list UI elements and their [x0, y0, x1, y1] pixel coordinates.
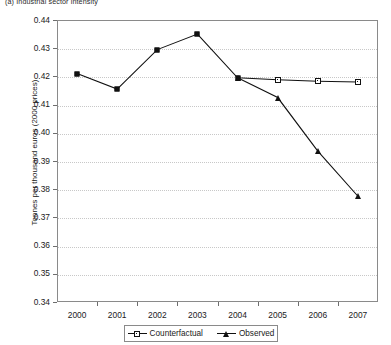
legend-item-observed: Observed: [217, 329, 275, 338]
data-point-observed-2006: [315, 148, 321, 154]
data-point-observed-2005: [275, 95, 281, 101]
data-point-counterfactual-2001: [115, 87, 120, 92]
legend-label-observed: Observed: [239, 329, 275, 338]
observed-legend-marker-icon: [217, 329, 236, 338]
data-point-counterfactual-2007: [355, 79, 361, 85]
data-point-counterfactual-2005: [275, 77, 281, 83]
series-line-observed: [238, 78, 358, 196]
data-point-counterfactual-2003: [195, 32, 200, 37]
series-lines: [0, 0, 391, 345]
counterfactual-legend-marker-icon: [128, 329, 147, 338]
data-point-counterfactual-2002: [155, 47, 160, 52]
legend-label-counterfactual: Counterfactual: [150, 329, 203, 338]
chart-legend: Counterfactual Observed: [124, 325, 278, 342]
data-point-counterfactual-2006: [315, 78, 321, 84]
data-point-observed-2007: [355, 193, 361, 199]
legend-item-counterfactual: Counterfactual: [128, 329, 203, 338]
data-point-observed-2004: [235, 75, 241, 81]
data-point-counterfactual-2000: [75, 71, 80, 76]
chart-figure: (a) Industrial sector intensity Tonnes p…: [0, 0, 391, 345]
